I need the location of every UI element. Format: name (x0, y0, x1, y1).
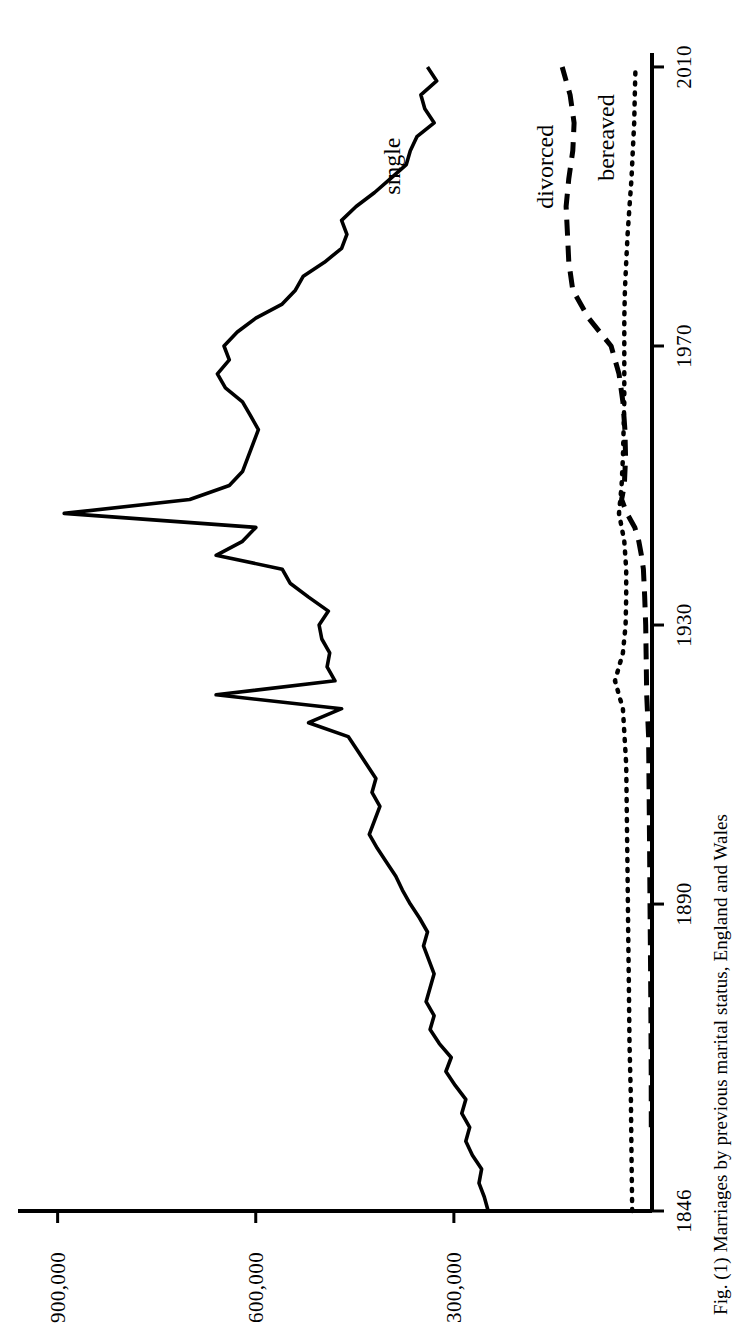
figure-page: 18461890193019702010 300,000600,000900,0… (0, 0, 733, 1329)
x-tick-label-1930: 1930 (672, 603, 697, 647)
y-tick-label-900000: 900,000 (45, 1252, 70, 1323)
rotated-figure-canvas: 18461890193019702010 300,000600,000900,0… (0, 0, 733, 1329)
y-tick-label-300000: 300,000 (441, 1252, 466, 1323)
x-tick-label-1890: 1890 (672, 882, 697, 926)
chart-svg (0, 0, 733, 1329)
y-tick-label-600000: 600,000 (243, 1252, 268, 1323)
figure-caption: Fig. (1) Marriages by previous marital s… (710, 814, 732, 1315)
series-line-divorced (562, 67, 651, 1127)
x-tick-label-2010: 2010 (672, 45, 697, 89)
series-line-bereaved (615, 67, 636, 1211)
series-line-single (64, 67, 488, 1211)
series-label-single: single (379, 137, 406, 194)
series-group (64, 67, 651, 1211)
series-label-divorced: divorced (532, 125, 559, 209)
chart-plot-area: 18461890193019702010 300,000600,000900,0… (0, 0, 733, 1329)
x-tick-label-1970: 1970 (672, 324, 697, 368)
series-label-bereaved: bereaved (593, 94, 620, 181)
x-tick-label-1846: 1846 (672, 1189, 697, 1233)
